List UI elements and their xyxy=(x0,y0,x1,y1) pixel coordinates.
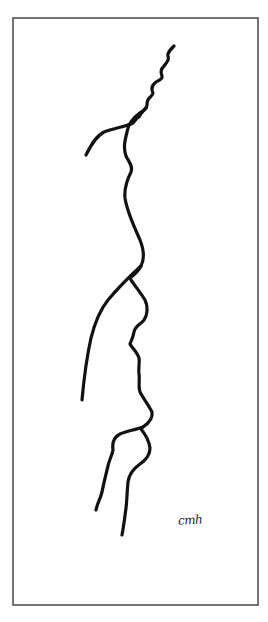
line-drawing-artwork xyxy=(0,0,268,622)
lower-right-line xyxy=(122,429,150,535)
artist-signature: cmh xyxy=(178,512,203,528)
wavy-top-line xyxy=(139,46,174,117)
picture-frame-border xyxy=(13,18,258,605)
lower-profile-line xyxy=(130,280,152,427)
forehead-nose-line xyxy=(124,112,143,278)
drawing-strokes xyxy=(82,46,174,535)
long-left-curve xyxy=(82,266,141,400)
